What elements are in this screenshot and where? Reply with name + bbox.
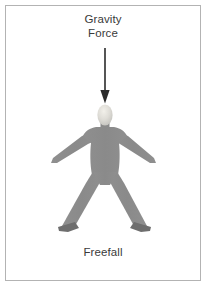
figure-head [97, 104, 112, 125]
gravity-force-arrow [100, 48, 109, 104]
diagram-canvas [0, 0, 206, 286]
freefall-diagram-panel: Gravity Force [0, 0, 206, 286]
arrow-head [100, 90, 109, 104]
freefall-caption: Freefall [0, 245, 206, 259]
freefall-human-figure [51, 104, 156, 232]
